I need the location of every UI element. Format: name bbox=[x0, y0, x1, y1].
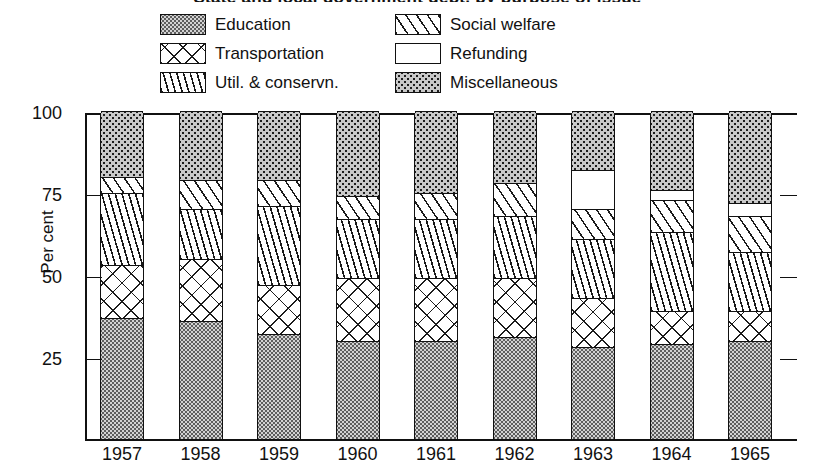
legend-label: Miscellaneous bbox=[450, 74, 558, 91]
chart-legend: EducationSocial welfareTransportationRef… bbox=[160, 10, 600, 97]
bar-segment-transportation bbox=[572, 298, 614, 347]
bar-segment-transportation bbox=[494, 278, 536, 337]
bar-1965 bbox=[728, 113, 772, 439]
y-axis-labels: 100755025 bbox=[0, 100, 82, 460]
bar-segment-social bbox=[101, 177, 143, 193]
x-tick-label: 1961 bbox=[401, 444, 471, 465]
x-tick-label: 1959 bbox=[244, 444, 314, 465]
y-tick-label: 50 bbox=[0, 267, 62, 288]
bar-segment-miscellaneous bbox=[494, 111, 536, 183]
y-tick-label: 100 bbox=[0, 103, 62, 124]
y-tick-label: 75 bbox=[0, 185, 62, 206]
bar-segment-util bbox=[415, 219, 457, 278]
bar-segment-social bbox=[494, 183, 536, 216]
bar-segment-social bbox=[180, 180, 222, 210]
bar-segment-education bbox=[101, 318, 143, 439]
bar-segment-social bbox=[651, 200, 693, 233]
y-tick-label: 25 bbox=[0, 349, 62, 370]
bar-1963 bbox=[571, 113, 615, 439]
bar-segment-miscellaneous bbox=[415, 111, 457, 193]
bar-segment-miscellaneous bbox=[180, 111, 222, 180]
y-tick-mark bbox=[85, 277, 102, 278]
bar-segment-education bbox=[651, 344, 693, 439]
bar-1961 bbox=[414, 113, 458, 439]
legend-swatch-refunding-icon bbox=[395, 43, 441, 64]
bar-segment-education bbox=[415, 341, 457, 439]
bar-segment-util bbox=[494, 216, 536, 278]
x-axis-labels: 195719581959196019611962196319641965 bbox=[87, 444, 797, 470]
bar-1962 bbox=[493, 113, 537, 439]
legend-item-util: Util. & conservn. bbox=[160, 72, 395, 93]
bar-segment-miscellaneous bbox=[258, 111, 300, 180]
bars-container bbox=[87, 113, 797, 439]
chart-title: State and local government debt, by purp… bbox=[0, 0, 835, 2]
legend-item-refunding: Refunding bbox=[395, 43, 600, 64]
x-tick-label: 1964 bbox=[637, 444, 707, 465]
legend-item-miscellaneous: Miscellaneous bbox=[395, 72, 600, 93]
y-tick-mark bbox=[85, 359, 102, 360]
legend-swatch-transportation-icon bbox=[160, 43, 206, 64]
y-tick-mark bbox=[85, 195, 102, 196]
bar-segment-social bbox=[258, 180, 300, 206]
x-tick-label: 1960 bbox=[323, 444, 393, 465]
x-tick-label: 1963 bbox=[558, 444, 628, 465]
bar-1957 bbox=[100, 113, 144, 439]
bar-1958 bbox=[179, 113, 223, 439]
bar-1960 bbox=[336, 113, 380, 439]
x-tick-label: 1958 bbox=[166, 444, 236, 465]
bar-segment-transportation bbox=[337, 278, 379, 340]
x-tick-label: 1965 bbox=[715, 444, 785, 465]
bar-segment-miscellaneous bbox=[651, 111, 693, 190]
bar-segment-education bbox=[729, 341, 771, 439]
legend-item-social: Social welfare bbox=[395, 14, 600, 35]
legend-item-transportation: Transportation bbox=[160, 43, 395, 64]
legend-swatch-social-icon bbox=[395, 14, 441, 35]
bar-segment-refunding bbox=[651, 190, 693, 200]
legend-swatch-education-icon bbox=[160, 14, 206, 35]
y-tick-mark-right bbox=[780, 195, 797, 196]
x-tick-label: 1957 bbox=[87, 444, 157, 465]
legend-label: Refunding bbox=[450, 45, 528, 62]
bar-segment-miscellaneous bbox=[572, 111, 614, 170]
bar-segment-transportation bbox=[729, 311, 771, 341]
x-tick-label: 1962 bbox=[480, 444, 550, 465]
bar-segment-education bbox=[337, 341, 379, 439]
legend-swatch-miscellaneous-icon bbox=[395, 72, 441, 93]
legend-item-education: Education bbox=[160, 14, 395, 35]
bar-segment-transportation bbox=[415, 278, 457, 340]
chart-figure: State and local government debt, by purp… bbox=[0, 0, 835, 470]
y-tick-mark-right bbox=[780, 277, 797, 278]
bar-segment-social bbox=[415, 193, 457, 219]
bar-segment-education bbox=[494, 337, 536, 439]
bar-1964 bbox=[650, 113, 694, 439]
bar-segment-miscellaneous bbox=[337, 111, 379, 196]
legend-label: Social welfare bbox=[450, 16, 556, 33]
bar-segment-education bbox=[180, 321, 222, 439]
bar-segment-transportation bbox=[651, 311, 693, 344]
bar-segment-util bbox=[651, 232, 693, 311]
bar-segment-miscellaneous bbox=[101, 111, 143, 177]
bar-segment-social bbox=[337, 196, 379, 219]
bar-segment-util bbox=[729, 252, 771, 311]
bar-segment-social bbox=[729, 216, 771, 252]
legend-label: Education bbox=[215, 16, 291, 33]
bar-segment-util bbox=[572, 239, 614, 298]
bar-segment-transportation bbox=[258, 285, 300, 334]
bar-segment-util bbox=[180, 209, 222, 258]
bar-segment-util bbox=[258, 206, 300, 285]
legend-swatch-util-icon bbox=[160, 72, 206, 93]
bar-segment-util bbox=[101, 193, 143, 265]
bar-segment-social bbox=[572, 209, 614, 239]
bar-segment-education bbox=[258, 334, 300, 439]
bar-segment-refunding bbox=[572, 170, 614, 209]
bar-segment-util bbox=[337, 219, 379, 278]
bar-segment-transportation bbox=[180, 259, 222, 321]
y-tick-mark-right bbox=[780, 359, 797, 360]
bar-segment-education bbox=[572, 347, 614, 439]
bar-1959 bbox=[257, 113, 301, 439]
bar-segment-miscellaneous bbox=[729, 111, 771, 203]
legend-label: Util. & conservn. bbox=[215, 74, 339, 91]
bar-segment-transportation bbox=[101, 265, 143, 317]
bar-segment-refunding bbox=[729, 203, 771, 216]
legend-label: Transportation bbox=[215, 45, 324, 62]
